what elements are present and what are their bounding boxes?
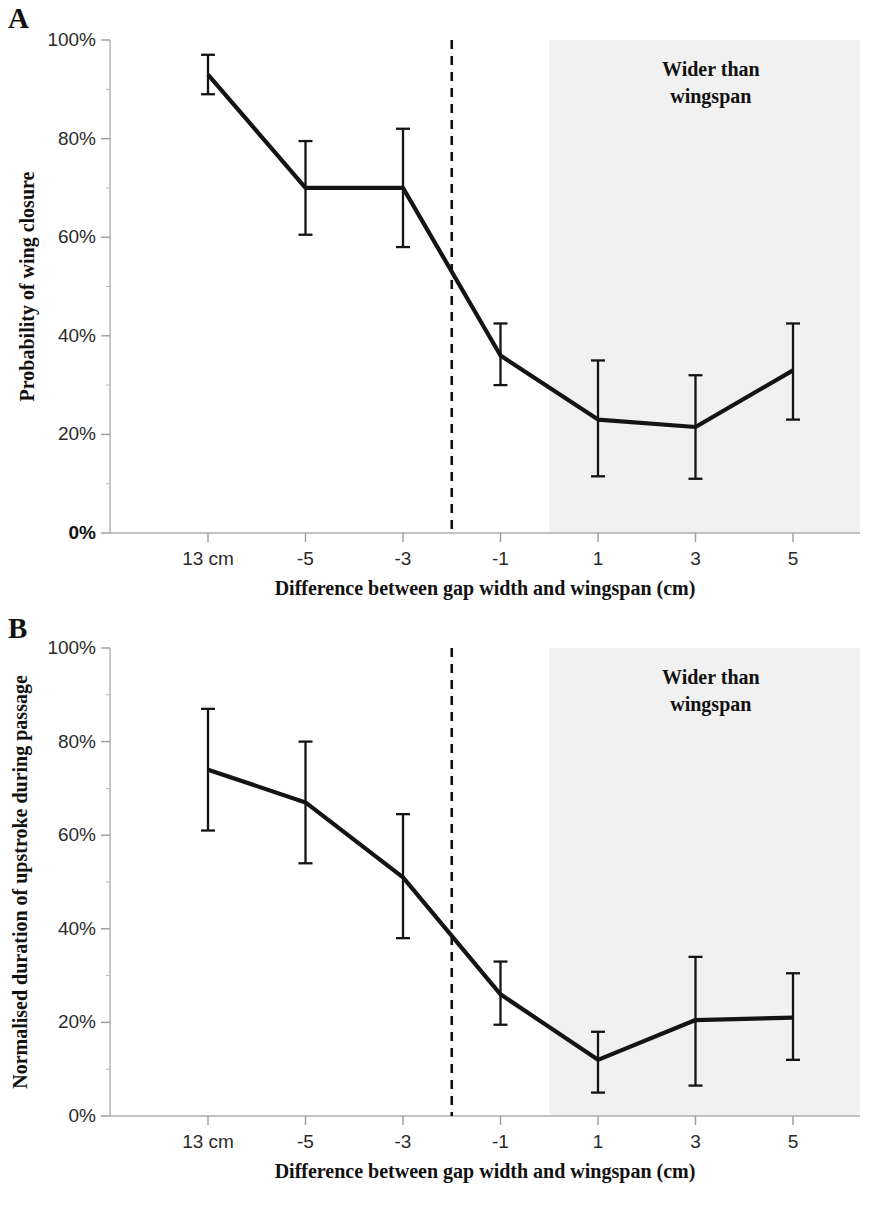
figure-two-panel-chart: A 0%20%40%60%80%100%13 cm-5-3-1135Wider … [0,0,874,1209]
y-tick-label: 0% [69,522,97,543]
y-axis-title: Probability of wing closure [16,171,39,401]
shaded-region-wider-than-wingspan [549,648,860,1116]
panel-b: B 0%20%40%60%80%100%13 cm-5-3-1135Wider … [0,596,874,1209]
x-tick-label: 3 [690,548,701,569]
shaded-region-annotation-line1: Wider than [662,666,760,688]
panel-a: A 0%20%40%60%80%100%13 cm-5-3-1135Wider … [0,0,874,600]
y-tick-label: 40% [58,918,96,939]
y-tick-label: 20% [58,1011,96,1032]
x-tick-label: 3 [690,1131,701,1152]
x-tick-label: 5 [788,548,799,569]
shaded-region-wider-than-wingspan [549,40,860,533]
x-tick-label: -3 [395,548,412,569]
y-tick-label: 20% [58,423,96,444]
x-tick-label: 13 cm [182,548,234,569]
y-tick-label: 80% [58,128,96,149]
y-tick-label: 40% [58,325,96,346]
x-tick-label: 5 [788,1131,799,1152]
y-tick-label: 80% [58,731,96,752]
y-axis-title: Normalised duration of upstroke during p… [9,675,32,1089]
x-tick-label: -5 [297,548,314,569]
panel-a-plot: 0%20%40%60%80%100%13 cm-5-3-1135Wider th… [0,0,874,600]
y-tick-label: 60% [58,226,96,247]
x-axis-title: Difference between gap width and wingspa… [275,1160,696,1183]
x-tick-label: 1 [593,1131,604,1152]
x-tick-label: 13 cm [182,1131,234,1152]
y-tick-label: 100% [47,637,96,658]
y-tick-label: 60% [58,824,96,845]
shaded-region-annotation-line2: wingspan [670,85,751,108]
y-tick-label: 100% [47,29,96,50]
panel-b-plot: 0%20%40%60%80%100%13 cm-5-3-1135Wider th… [0,596,874,1209]
x-tick-label: -1 [492,1131,509,1152]
shaded-region-annotation-line2: wingspan [670,693,751,716]
y-tick-label: 0% [69,1105,97,1126]
x-tick-label: 1 [593,548,604,569]
x-tick-label: -5 [297,1131,314,1152]
x-tick-label: -3 [395,1131,412,1152]
shaded-region-annotation-line1: Wider than [662,58,760,80]
x-tick-label: -1 [492,548,509,569]
